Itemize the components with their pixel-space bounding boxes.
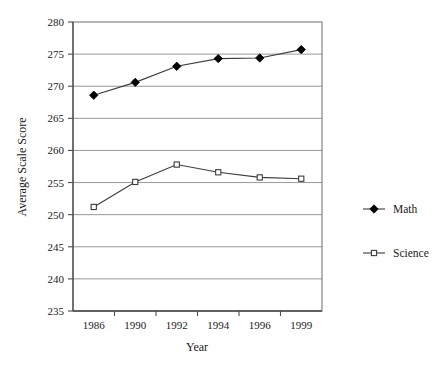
data-point-marker-science bbox=[216, 170, 221, 175]
x-tick-label: 1999 bbox=[290, 319, 313, 331]
y-axis-title: Average Scale Score bbox=[15, 117, 29, 216]
y-tick-label: 240 bbox=[48, 273, 65, 285]
plot-frame bbox=[73, 22, 322, 311]
data-point-marker-math bbox=[173, 62, 181, 70]
line-chart: 235240245250255260265270275280 198619901… bbox=[0, 0, 445, 368]
x-axis-title: Year bbox=[186, 340, 208, 354]
gridline-group bbox=[73, 54, 322, 311]
chart-container: 235240245250255260265270275280 198619901… bbox=[0, 0, 445, 368]
legend-item-math[interactable]: Math bbox=[363, 203, 418, 215]
y-tick-label: 250 bbox=[48, 209, 65, 221]
data-point-marker-legend bbox=[370, 205, 378, 213]
y-tick-label-group: 235240245250255260265270275280 bbox=[48, 16, 65, 317]
series-line-science bbox=[94, 165, 302, 207]
x-tick-label: 1990 bbox=[124, 319, 147, 331]
chart-legend: MathScience bbox=[363, 203, 429, 259]
x-tick-group bbox=[115, 311, 281, 316]
data-point-marker-math bbox=[297, 45, 305, 53]
y-tick-label: 255 bbox=[48, 177, 65, 189]
data-point-marker-science bbox=[133, 179, 138, 184]
legend-label: Science bbox=[393, 247, 429, 259]
data-point-marker-science bbox=[174, 162, 179, 167]
y-tick-label: 280 bbox=[48, 16, 65, 28]
legend-label: Math bbox=[393, 203, 418, 215]
data-series-group bbox=[90, 45, 306, 209]
data-point-marker-science bbox=[299, 176, 304, 181]
series-line-math bbox=[94, 50, 302, 96]
x-tick-label: 1994 bbox=[207, 319, 230, 331]
x-tick-label: 1986 bbox=[83, 319, 106, 331]
data-point-marker-math bbox=[214, 54, 222, 62]
x-tick-label: 1996 bbox=[249, 319, 272, 331]
x-tick-label: 1992 bbox=[166, 319, 188, 331]
legend-item-science[interactable]: Science bbox=[363, 247, 429, 259]
series-science bbox=[91, 162, 304, 210]
y-tick-label: 270 bbox=[48, 80, 65, 92]
y-tick-label: 275 bbox=[48, 48, 65, 60]
data-point-marker-math bbox=[256, 54, 264, 62]
series-math bbox=[90, 45, 306, 99]
y-tick-group bbox=[68, 22, 73, 311]
x-tick-label-group: 198619901992199419961999 bbox=[83, 319, 313, 331]
data-point-marker-legend bbox=[371, 250, 376, 255]
data-point-marker-science bbox=[257, 175, 262, 180]
plot-area-border bbox=[73, 22, 322, 311]
data-point-marker-science bbox=[91, 204, 96, 209]
data-point-marker-math bbox=[90, 91, 98, 99]
y-tick-label: 260 bbox=[48, 144, 65, 156]
y-tick-label: 235 bbox=[48, 305, 65, 317]
y-tick-label: 265 bbox=[48, 112, 65, 124]
y-tick-label: 245 bbox=[48, 241, 65, 253]
data-point-marker-math bbox=[131, 78, 139, 86]
